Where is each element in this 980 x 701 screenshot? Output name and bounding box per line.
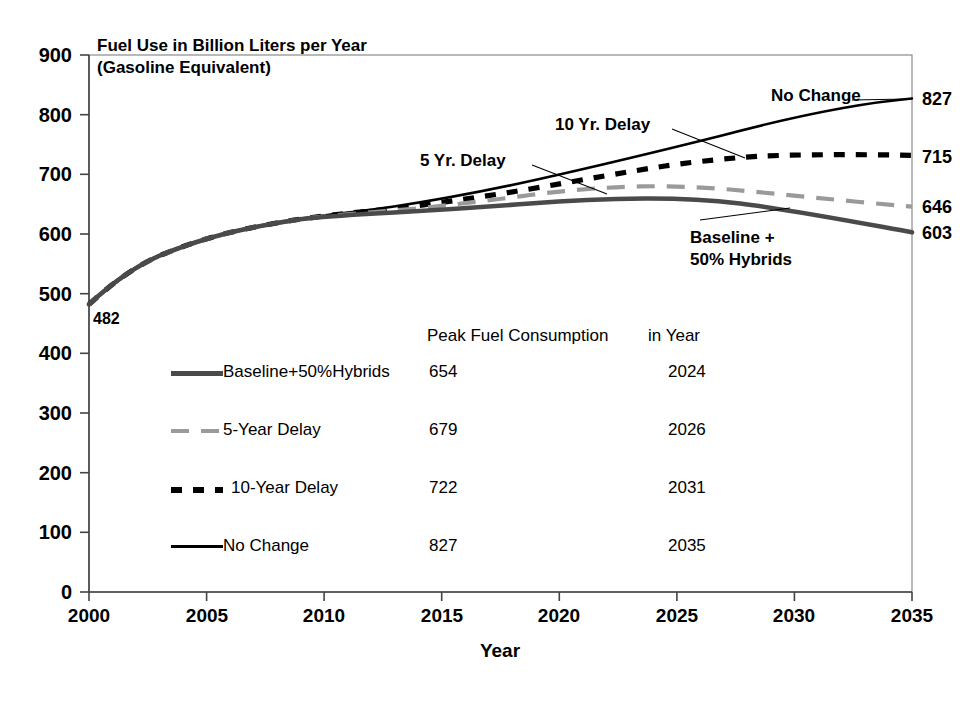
y-tick-marks xyxy=(80,55,89,592)
y-tick-label-200: 200 xyxy=(12,462,72,485)
chart-title-line1: Fuel Use in Billion Liters per Year xyxy=(97,36,367,56)
end-label-baseline: 603 xyxy=(922,223,952,244)
x-tick-label-2010: 2010 xyxy=(284,605,364,627)
legend-header-peak: Peak Fuel Consumption xyxy=(427,326,608,346)
legend-peak-five-year-delay: 679 xyxy=(429,420,457,440)
chart-title-line2: (Gasoline Equivalent) xyxy=(97,58,271,78)
end-label-ten-year-delay: 715 xyxy=(922,147,952,168)
legend-year-five-year-delay: 2026 xyxy=(668,420,706,440)
y-tick-label-700: 700 xyxy=(12,163,72,186)
series-common-segment xyxy=(89,211,371,305)
series-ten-year-delay xyxy=(89,155,912,305)
x-axis-title: Year xyxy=(460,640,540,662)
x-tick-label-2015: 2015 xyxy=(402,605,482,627)
y-tick-label-400: 400 xyxy=(12,342,72,365)
legend-peak-no-change: 827 xyxy=(429,536,457,556)
end-label-five-year-delay: 646 xyxy=(922,197,952,218)
series-line-no-change xyxy=(89,213,324,304)
legend-swatch-no-change xyxy=(171,545,223,548)
legend-name-baseline-hybrids: Baseline+50%Hybrids xyxy=(223,362,390,382)
curve-label-five-year-delay: 5 Yr. Delay xyxy=(420,151,506,171)
x-tick-label-2030: 2030 xyxy=(754,605,834,627)
x-tick-label-2005: 2005 xyxy=(167,605,247,627)
curve-label-baseline-line2: 50% Hybrids xyxy=(690,250,792,270)
legend-swatch-baseline-hybrids xyxy=(171,371,223,376)
x-tick-label-2020: 2020 xyxy=(519,605,599,627)
x-tick-label-2035: 2035 xyxy=(872,605,952,627)
curve-label-no-change: No Change xyxy=(771,86,861,106)
y-tick-label-300: 300 xyxy=(12,402,72,425)
series-no-change xyxy=(89,99,912,305)
legend-name-ten-year-delay: 10-Year Delay xyxy=(231,478,338,498)
plot-frame xyxy=(89,55,912,592)
legend-swatch-five-year-delay xyxy=(171,429,223,433)
x-tick-label-2025: 2025 xyxy=(637,605,717,627)
legend-peak-ten-year-delay: 722 xyxy=(429,478,457,498)
legend-peak-baseline-hybrids: 654 xyxy=(429,362,457,382)
y-tick-label-100: 100 xyxy=(12,521,72,544)
legend-name-no-change: No Change xyxy=(223,536,309,556)
legend-name-five-year-delay: 5-Year Delay xyxy=(223,420,321,440)
legend-year-no-change: 2035 xyxy=(668,536,706,556)
legend-swatch-ten-year-delay xyxy=(171,487,223,493)
curve-label-baseline-line1: Baseline + xyxy=(690,228,775,248)
start-value-label: 482 xyxy=(93,310,120,328)
y-tick-label-600: 600 xyxy=(12,223,72,246)
legend-header-year: in Year xyxy=(648,326,700,346)
curve-label-ten-year-delay: 10 Yr. Delay xyxy=(555,115,650,135)
leader-line-baseline xyxy=(700,208,790,220)
fuel-use-chart: Fuel Use in Billion Liters per Year (Gas… xyxy=(0,0,980,701)
y-tick-label-500: 500 xyxy=(12,283,72,306)
x-tick-marks xyxy=(89,592,912,601)
end-label-no-change: 827 xyxy=(922,89,952,110)
legend-year-baseline-hybrids: 2024 xyxy=(668,362,706,382)
y-tick-label-900: 900 xyxy=(12,44,72,67)
y-tick-label-800: 800 xyxy=(12,104,72,127)
y-tick-label-0: 0 xyxy=(12,581,72,604)
x-tick-label-2000: 2000 xyxy=(49,605,129,627)
legend-year-ten-year-delay: 2031 xyxy=(668,478,706,498)
